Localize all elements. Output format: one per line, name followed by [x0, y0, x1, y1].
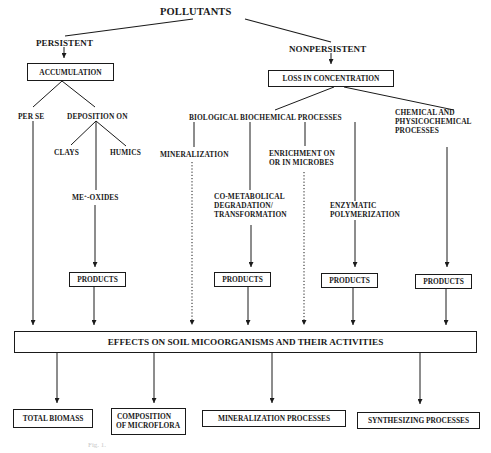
outcome-composition-of-microflora: COMPOSITION OF MICROFLORA: [111, 408, 186, 435]
products-box-persistent: PRODUCTS: [69, 272, 126, 287]
figure-caption: Fig. 1.: [88, 441, 106, 449]
metal-oxides-label: ME+-OXIDES: [72, 193, 119, 202]
outcome-label: TOTAL BIOMASS: [23, 414, 84, 423]
biological-biochemical-processes-label: BIOLOGICAL BIOCHEMICAL PROCESSES: [189, 113, 342, 122]
loss-in-concentration-box: LOSS IN CONCENTRATION: [268, 70, 394, 87]
products-box-chemical: PRODUCTS: [415, 274, 472, 289]
mineralization-label: MINERALIZATION: [160, 150, 229, 159]
products-box-enzymatic: PRODUCTS: [321, 273, 378, 288]
per-se-label: PER SE: [18, 112, 44, 121]
outcome-total-biomass: TOTAL BIOMASS: [13, 409, 93, 428]
pollutants-label: POLLUTANTS: [160, 6, 231, 18]
enrichment-label: ENRICHMENT ON OR IN MICROBES: [269, 149, 335, 167]
chemical-processes-label: CHEMICAL AND PHYSICOCHEMICAL PROCESSES: [395, 108, 472, 135]
effects-box: EFFECTS ON SOIL MICOORGANISMS AND THEIR …: [14, 331, 477, 353]
outcome-mineralization-processes: MINERALIZATION PROCESSES: [202, 410, 346, 427]
persistent-label: PERSISTENT: [36, 38, 93, 49]
loss-in-concentration-label: LOSS IN CONCENTRATION: [283, 74, 380, 83]
products-label: PRODUCTS: [329, 276, 370, 285]
enzymatic-polymerization-label: ENZYMATIC POLYMERIZATION: [330, 201, 400, 219]
humics-label: HUMICS: [110, 148, 141, 157]
nonpersistent-label: NONPERSISTENT: [289, 44, 366, 55]
products-label: PRODUCTS: [77, 275, 118, 284]
outcome-label-line: OF MICROFLORA: [116, 421, 185, 430]
products-label: PRODUCTS: [423, 277, 464, 286]
effects-label: EFFECTS ON SOIL MICOORGANISMS AND THEIR …: [108, 338, 384, 347]
accumulation-label: ACCUMULATION: [39, 68, 101, 77]
outcome-label-line: COMPOSITION: [116, 412, 185, 421]
clays-label: CLAYS: [54, 148, 79, 157]
products-box-cometabolical: PRODUCTS: [214, 272, 271, 287]
deposition-on-label: DEPOSITION ON: [67, 112, 128, 121]
outcome-synthesizing-processes: SYNTHESIZING PROCESSES: [357, 412, 480, 429]
products-label: PRODUCTS: [222, 275, 263, 284]
pollutant-effects-diagram: POLLUTANTS PERSISTENT ACCUMULATION PER S…: [0, 0, 491, 453]
accumulation-box: ACCUMULATION: [27, 63, 114, 81]
cometabolical-degradation-label: CO-METABOLICAL DEGRADATION/ TRANSFORMATI…: [214, 192, 287, 219]
outcome-label: SYNTHESIZING PROCESSES: [368, 416, 469, 425]
outcome-label: MINERALIZATION PROCESSES: [218, 414, 330, 423]
